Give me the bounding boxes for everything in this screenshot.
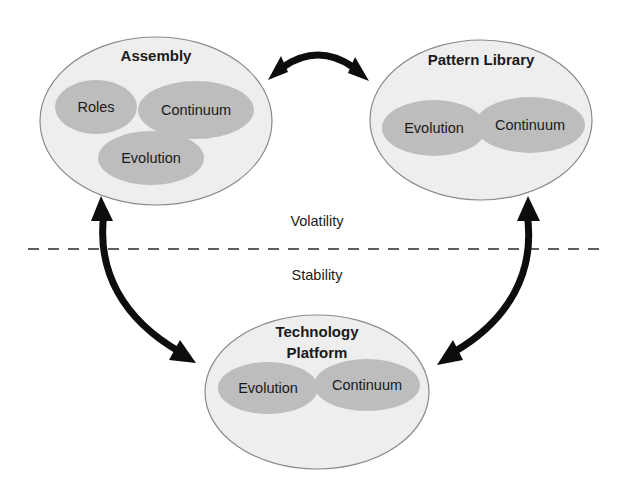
- assembly-item-evolution-label: Evolution: [121, 150, 181, 166]
- technology-platform-title-line1: Technology: [275, 323, 359, 340]
- technology-platform-item-evolution-label: Evolution: [238, 380, 298, 396]
- pattern-library-title: Pattern Library: [428, 51, 535, 68]
- assembly-item-continuum-label: Continuum: [161, 102, 231, 118]
- diagram-svg: Assembly Roles Continuum Evolution Patte…: [0, 0, 626, 477]
- group-pattern-library[interactable]: Pattern Library Evolution Continuum: [370, 40, 592, 200]
- group-assembly[interactable]: Assembly Roles Continuum Evolution: [40, 37, 272, 205]
- connector-assembly-pattern-library-head-left: [268, 56, 288, 80]
- connector-pattern-library-technology-platform-path: [454, 213, 529, 352]
- zone-label-stability: Stability: [292, 267, 344, 283]
- assembly-title: Assembly: [121, 47, 193, 64]
- zone-label-volatility: Volatility: [290, 213, 344, 229]
- connector-assembly-pattern-library-path: [283, 55, 353, 67]
- assembly-item-roles-label: Roles: [77, 99, 114, 115]
- pattern-library-item-evolution-label: Evolution: [404, 120, 464, 136]
- connector-assembly-pattern-library-head-right: [348, 57, 369, 81]
- connector-assembly-technology-platform[interactable]: [91, 196, 196, 363]
- diagram-canvas: Assembly Roles Continuum Evolution Patte…: [0, 0, 626, 477]
- connector-pattern-library-technology-platform-head-top: [517, 196, 540, 221]
- group-technology-platform[interactable]: Technology Platform Evolution Continuum: [205, 315, 429, 469]
- technology-platform-item-continuum-label: Continuum: [332, 377, 402, 393]
- pattern-library-item-continuum-label: Continuum: [495, 117, 565, 133]
- connector-assembly-technology-platform-path: [103, 213, 180, 352]
- connector-assembly-technology-platform-head-top: [91, 196, 113, 221]
- connector-assembly-pattern-library[interactable]: [268, 55, 369, 81]
- connector-pattern-library-technology-platform[interactable]: [437, 196, 540, 365]
- connector-pattern-library-technology-platform-head-bottom: [437, 340, 463, 365]
- technology-platform-title-line2: Platform: [287, 344, 348, 361]
